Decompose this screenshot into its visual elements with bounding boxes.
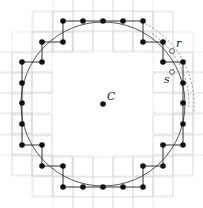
boundary-point [60,184,66,190]
boundary-point [19,80,25,86]
grid-cell [193,52,203,72]
boundary-point [60,39,66,45]
marked-label-r: r [176,37,182,50]
boundary-point [180,100,186,106]
boundary-point [80,18,86,24]
grid-cell [32,176,52,196]
grid-cell [93,157,113,177]
grid-cell [133,197,153,208]
grid-cell [32,72,52,92]
grid-cell [73,197,93,208]
marked-point-r [170,49,175,54]
grid-cell [73,32,93,52]
boundary-point [100,184,106,190]
boundary-point [19,142,25,148]
grid-cell [193,135,203,155]
grid-cell [0,93,12,113]
grid-cell [53,197,73,208]
boundary-point [39,142,45,148]
grid-cell [153,177,173,197]
grid-cell [0,135,12,155]
boundary-point [39,163,45,169]
grid-cell [193,93,203,113]
boundary-point [180,142,186,148]
boundary-point [180,59,186,65]
boundary-point [160,163,166,169]
boundary-point [140,18,146,24]
grid-cell [153,115,173,135]
grid-cell [0,52,12,72]
grid-cell [173,156,193,176]
center-label: C [107,90,116,103]
grid-cell [153,72,173,92]
boundary-point [60,163,66,169]
grid-cell [113,197,133,208]
boundary-point [60,18,66,24]
grid-cell [73,0,93,11]
boundary-point [180,121,186,127]
grid-cell [113,31,133,51]
grid-cell [93,0,113,11]
grid-cell [53,0,73,11]
grid-cell [32,93,52,113]
grid-cell [12,156,32,176]
grid-cell [33,11,53,31]
grid-cell [12,155,32,175]
grid-cell [193,114,203,134]
grid-cell [73,157,93,177]
boundary-point [160,142,166,148]
boundary-point [140,184,146,190]
boundary-point [39,59,45,65]
digital-circle-diagram: rs C [0,0,203,208]
grid-cell [113,157,133,177]
grid-cell [173,155,193,175]
boundary-point [160,39,166,45]
marked-point-s [170,70,175,75]
grid-cell [0,73,12,93]
boundary-point [160,59,166,65]
grid-cell [32,73,52,93]
grid-cell [153,73,173,93]
boundary-point [100,18,106,24]
grid-cell [73,31,93,51]
grid-cell [133,0,153,11]
boundary-point [19,59,25,65]
boundary-point [19,100,25,106]
boundary-point [180,80,186,86]
grid-cell [33,177,53,197]
grid-cell [153,114,173,134]
grid-cell [153,93,173,113]
grid-cell [0,114,12,134]
center-point [100,101,106,107]
grid-cell [12,32,32,52]
grid-cell [113,156,133,176]
grid-cell [113,0,133,11]
grid-cell [93,31,113,51]
boundary-point [140,39,146,45]
grid-cell [32,12,52,32]
grid-cell [153,12,173,32]
boundary-point [39,39,45,45]
grid-cell [153,176,173,196]
marked-label-s: s [164,73,170,86]
grid-cell [153,11,173,31]
grid-cell [73,156,93,176]
grid-cell [32,114,52,134]
grid-cell [93,197,113,208]
boundary-point [19,121,25,127]
grid-cell [113,32,133,52]
grid-cell [193,73,203,93]
grid-cell [32,115,52,135]
boundary-point [120,18,126,24]
boundary-point [80,184,86,190]
boundary-point [140,163,146,169]
boundary-point [120,184,126,190]
